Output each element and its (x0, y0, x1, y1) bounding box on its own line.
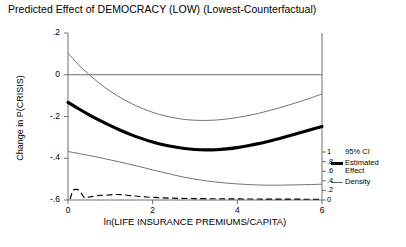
legend-swatch-solid-thick (331, 162, 343, 165)
secondary-y-tick-label: .6 (327, 167, 341, 175)
legend-item: 95% CI (345, 148, 405, 157)
legend-item: Density (345, 178, 405, 187)
axes-group (64, 33, 326, 204)
x-tick-label: 2 (143, 206, 163, 215)
x-tick-label: 0 (58, 206, 78, 215)
legend-item: EstimatedEffect (345, 159, 405, 176)
series-95-ci-lower (68, 152, 322, 186)
chart-legend: 95% CIEstimatedEffectDensity (345, 148, 405, 188)
x-axis-label: ln(LIFE INSURANCE PREMIUMS/CAPITA) (68, 216, 322, 227)
series-estimated-effect (68, 102, 322, 150)
legend-label: Density (345, 178, 405, 187)
y-tick-label: .2 (34, 28, 60, 37)
secondary-y-tick-label: .4 (327, 177, 341, 185)
legend-label: 95% CI (345, 148, 405, 157)
y-tick-label: -.2 (34, 112, 60, 121)
x-tick-label: 6 (312, 206, 332, 215)
legend-label-cont: Effect (345, 167, 405, 176)
series-density (70, 189, 322, 199)
y-axis-label: Change in P(CRISIS) (15, 58, 25, 178)
series-95-ci-upper (68, 53, 322, 120)
x-tick-label: 4 (227, 206, 247, 215)
y-tick-label: 0 (34, 70, 60, 79)
secondary-y-tick-label: 1 (327, 148, 341, 156)
y-tick-label: -.4 (34, 153, 60, 162)
legend-swatch-dashed (331, 182, 343, 183)
secondary-y-tick-label: 0 (327, 196, 341, 204)
y-tick-label: -.6 (34, 195, 60, 204)
secondary-y-tick-label: .2 (327, 186, 341, 194)
chart-figure: Predicted Effect of DEMOCRACY (LOW) (Low… (0, 0, 406, 247)
